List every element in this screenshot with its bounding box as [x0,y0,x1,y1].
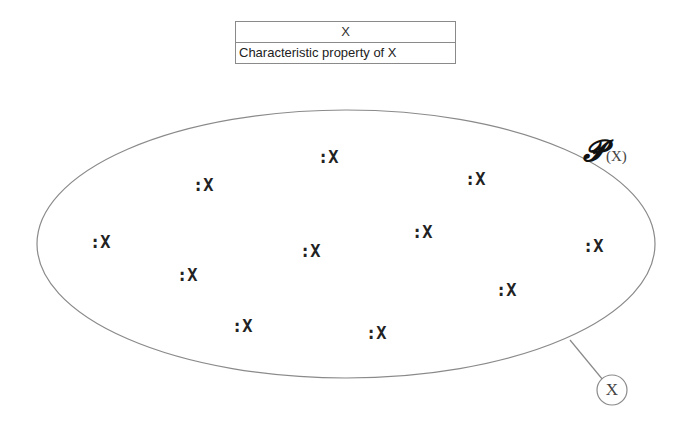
member-instance: :X [318,147,338,167]
member-instance: :X [496,280,516,300]
powerset-argument: (X) [606,148,627,164]
diagram-canvas [0,0,682,435]
class-reference-label: X [598,376,626,404]
member-instance: :X [193,175,213,195]
member-instance: :X [232,316,252,336]
member-instance: :X [90,232,110,252]
class-attribute: Characteristic property of X [236,43,455,63]
member-instance: :X [366,323,386,343]
class-name: X [236,22,455,43]
member-instance: :X [583,236,603,256]
class-box: X Characteristic property of X [235,21,456,64]
powerset-ellipse [37,110,655,378]
member-instance: :X [465,169,485,189]
member-instance: :X [412,222,432,242]
member-instance: :X [177,265,197,285]
member-instance: :X [300,241,320,261]
powerset-symbol: 𝓟 [583,133,605,168]
powerset-label: 𝓟(X) [583,133,627,169]
connector-line [570,340,603,380]
